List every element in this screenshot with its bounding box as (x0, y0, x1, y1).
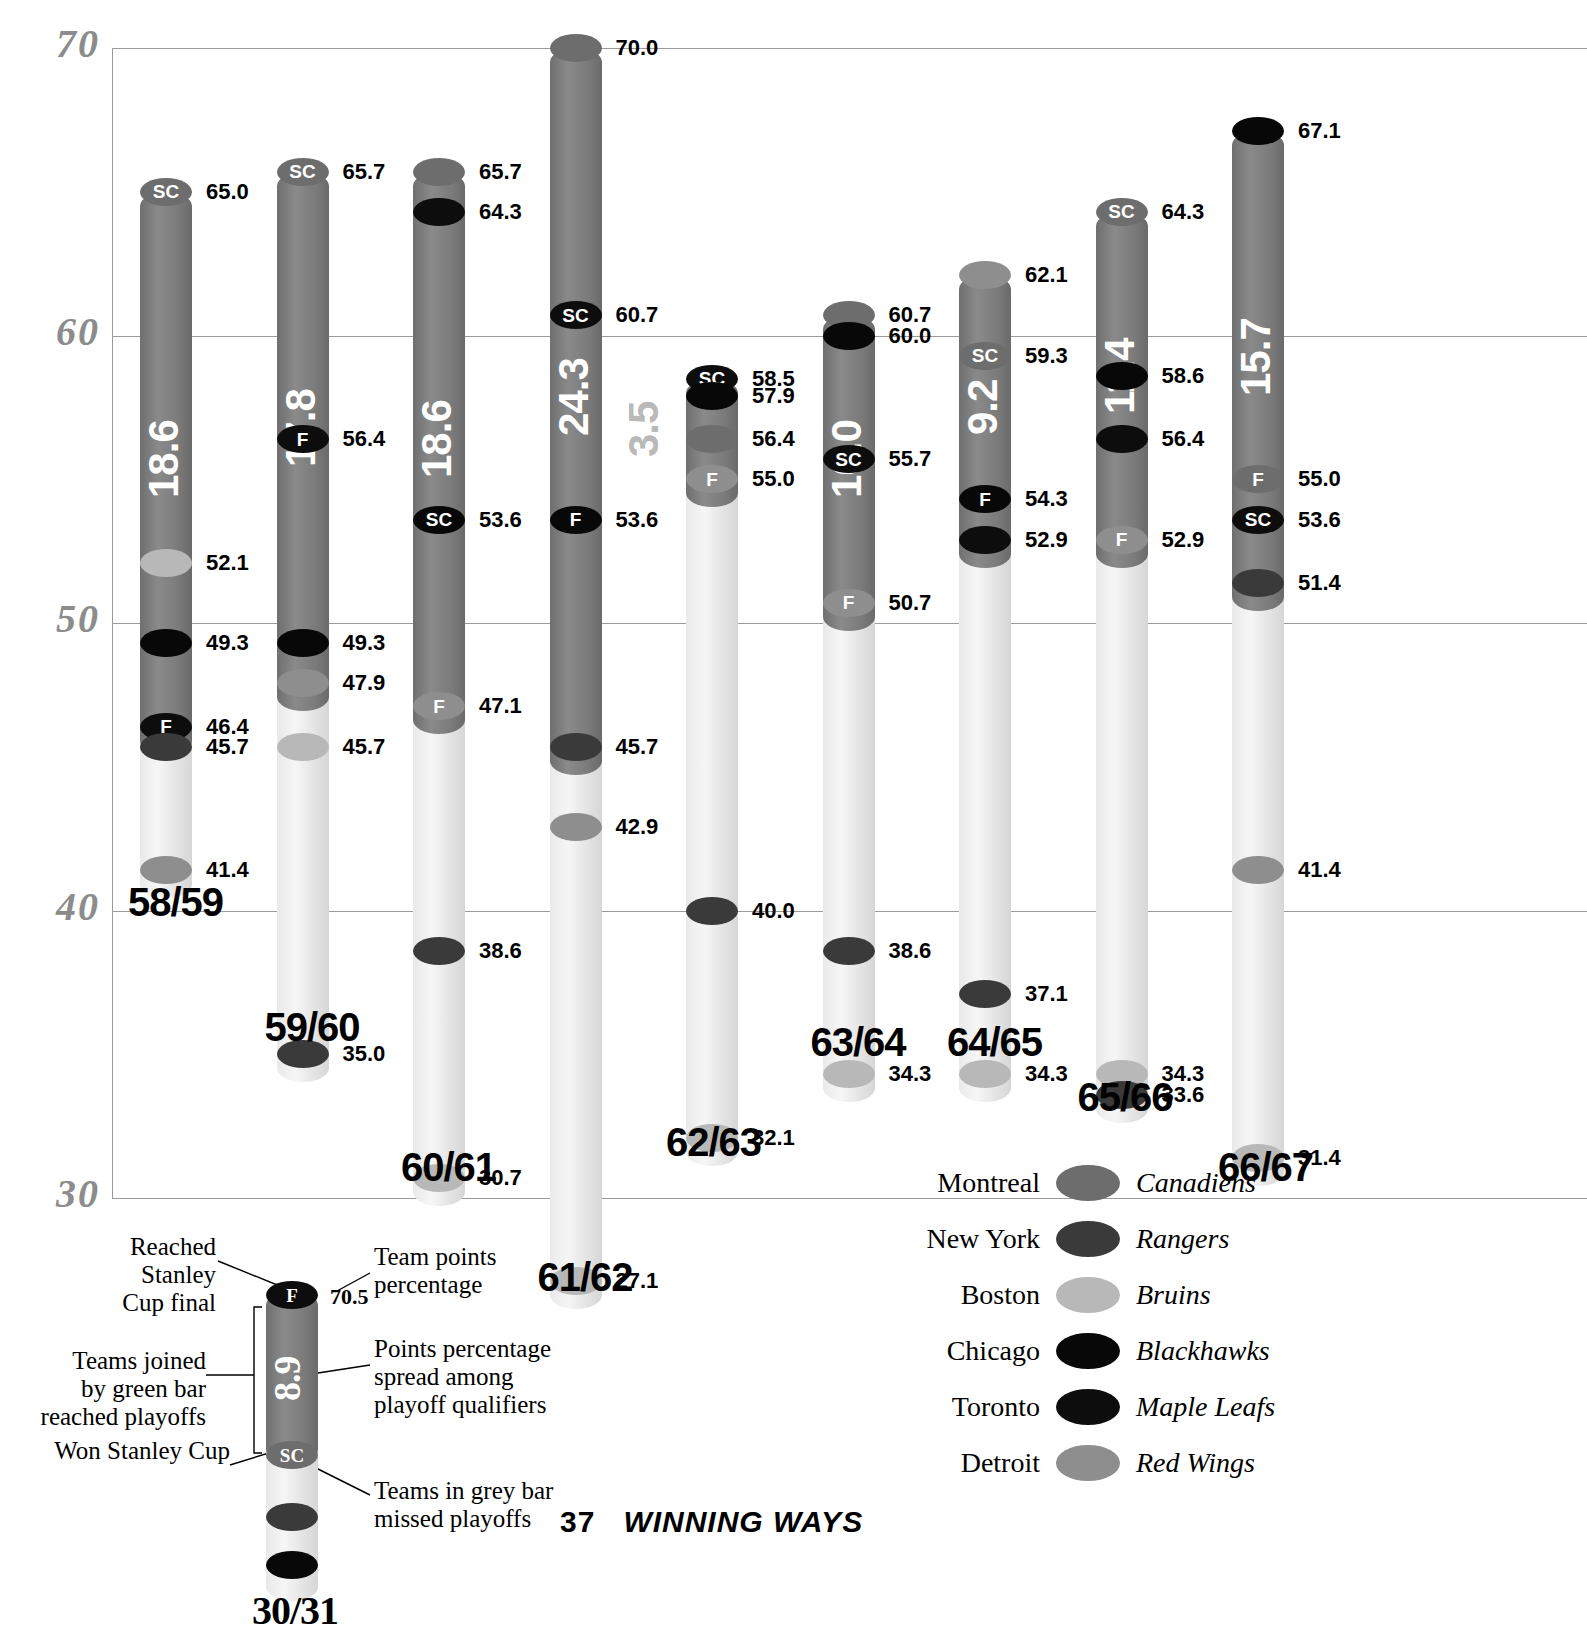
key-dot-cup: SC (266, 1441, 318, 1469)
team-dot-redwings[interactable] (550, 813, 602, 841)
legend-city: Detroit (900, 1447, 1056, 1479)
team-dot-mapleleafs[interactable]: SC (1232, 506, 1284, 534)
team-dot-rangers[interactable] (140, 733, 192, 761)
key-label-won-cup: Won Stanley Cup (12, 1437, 230, 1465)
y-tick-label-70: 70 (30, 20, 100, 67)
team-dot-redwings[interactable]: F (1096, 526, 1148, 554)
value-label: 38.6 (889, 938, 932, 964)
legend-swatch-mapleleafs (1056, 1389, 1120, 1425)
team-dot-rangers[interactable] (823, 937, 875, 965)
season-label-62-63: 62/63 (666, 1120, 761, 1165)
team-dot-rangers[interactable] (1232, 569, 1284, 597)
value-label: 53.6 (1298, 507, 1341, 533)
value-label: 65.7 (479, 159, 522, 185)
team-dot-mapleleafs[interactable] (959, 526, 1011, 554)
team-dot-blackhawks[interactable] (823, 322, 875, 350)
value-label: 59.3 (1025, 343, 1068, 369)
page-number: 37 (560, 1505, 595, 1538)
team-dot-redwings[interactable]: F (823, 589, 875, 617)
team-dot-rangers[interactable] (413, 937, 465, 965)
team-dot-redwings[interactable] (277, 669, 329, 697)
season-label-59-60: 59/60 (265, 1005, 360, 1050)
key-label-joined-green: Teams joined by green bar reached playof… (18, 1347, 206, 1431)
value-label: 49.3 (206, 630, 249, 656)
team-dot-mapleleafs[interactable]: SC (823, 445, 875, 473)
legend-city: Toronto (900, 1391, 1056, 1423)
team-dot-rangers[interactable] (550, 733, 602, 761)
legend-city: Chicago (900, 1335, 1056, 1367)
team-dot-montreal[interactable]: SC (1096, 198, 1148, 226)
legend-row-blackhawks[interactable]: ChicagoBlackhawks (900, 1328, 1300, 1374)
value-label: 56.4 (752, 426, 795, 452)
key-label-reached-final: Reached Stanley Cup final (40, 1233, 216, 1317)
value-label: 47.9 (343, 670, 386, 696)
team-dot-rangers[interactable] (686, 897, 738, 925)
season-label-58-59: 58/59 (128, 880, 223, 925)
value-label: 56.4 (1162, 426, 1205, 452)
team-dot-blackhawks[interactable] (686, 382, 738, 410)
legend-city: Boston (900, 1279, 1056, 1311)
legend-row-mapleleafs[interactable]: TorontoMaple Leafs (900, 1384, 1300, 1430)
team-dot-montreal[interactable] (413, 158, 465, 186)
team-dot-mapleleafs[interactable] (413, 198, 465, 226)
value-label: 42.9 (616, 814, 659, 840)
value-label: 70.0 (616, 35, 659, 61)
legend-row-rangers[interactable]: New YorkRangers (900, 1216, 1300, 1262)
team-dot-montreal[interactable] (686, 425, 738, 453)
value-label: 38.6 (479, 938, 522, 964)
team-dot-mapleleafs[interactable] (1096, 425, 1148, 453)
key-marker-sc: SC (280, 1446, 304, 1465)
season-label-65-66: 65/66 (1078, 1075, 1173, 1120)
legend-swatch-redwings (1056, 1445, 1120, 1481)
book-title: WINNING WAYS (623, 1505, 863, 1538)
value-label: 65.7 (343, 159, 386, 185)
team-dot-redwings[interactable] (959, 261, 1011, 289)
value-label: 64.3 (479, 199, 522, 225)
value-label: 50.7 (889, 590, 932, 616)
page-footer: 37WINNING WAYS (560, 1505, 863, 1539)
team-dot-montreal[interactable] (550, 34, 602, 62)
team-dot-blackhawks[interactable] (140, 629, 192, 657)
key-spread-value: 8.9 (266, 1325, 318, 1433)
season-label-64-65: 64/65 (947, 1020, 1042, 1065)
value-label: 41.4 (1298, 857, 1341, 883)
legend-nickname: Rangers (1120, 1223, 1229, 1255)
legend-row-redwings[interactable]: DetroitRed Wings (900, 1440, 1300, 1486)
legend-row-montreal[interactable]: MontrealCanadiens (900, 1160, 1300, 1206)
value-label: 62.1 (1025, 262, 1068, 288)
team-dot-bruins[interactable] (140, 549, 192, 577)
team-dot-montreal[interactable]: SC (277, 158, 329, 186)
team-dot-bruins[interactable] (277, 733, 329, 761)
value-label: 58.6 (1162, 363, 1205, 389)
value-label: 65.0 (206, 179, 249, 205)
team-dot-montreal[interactable]: SC (140, 178, 192, 206)
team-dot-blackhawks[interactable]: F (550, 506, 602, 534)
key-label-grey-note: Teams in grey bar missed playoffs (374, 1477, 584, 1533)
value-label: 34.3 (889, 1061, 932, 1087)
team-dot-rangers[interactable] (959, 980, 1011, 1008)
value-label: 64.3 (1162, 199, 1205, 225)
value-label: 55.0 (1298, 466, 1341, 492)
spread-label: 18.6 (413, 383, 465, 495)
legend-nickname: Bruins (1120, 1279, 1211, 1311)
value-label: 52.9 (1162, 527, 1205, 553)
key-label-spread-note: Points percentage spread among playoff q… (374, 1335, 584, 1419)
y-axis-line (112, 48, 113, 1198)
value-label: 57.9 (752, 383, 795, 409)
legend-nickname: Blackhawks (1120, 1335, 1270, 1367)
legend-swatch-bruins (1056, 1277, 1120, 1313)
legend-row-bruins[interactable]: BostonBruins (900, 1272, 1300, 1318)
team-dot-blackhawks[interactable]: SC (413, 506, 465, 534)
team-dot-mapleleafs[interactable]: SC (550, 301, 602, 329)
key-season-label: 30/31 (252, 1589, 338, 1628)
team-dot-blackhawks[interactable] (1096, 362, 1148, 390)
team-dot-mapleleafs[interactable]: F (277, 425, 329, 453)
team-dot-blackhawks[interactable] (277, 629, 329, 657)
team-dot-montreal[interactable]: SC (959, 342, 1011, 370)
value-label: 34.3 (1025, 1061, 1068, 1087)
value-label: 60.0 (889, 323, 932, 349)
value-label: 45.7 (206, 734, 249, 760)
team-legend: MontrealCanadiensNew YorkRangersBostonBr… (900, 1160, 1300, 1496)
season-label-60-61: 60/61 (401, 1145, 496, 1190)
value-label: 60.7 (616, 302, 659, 328)
